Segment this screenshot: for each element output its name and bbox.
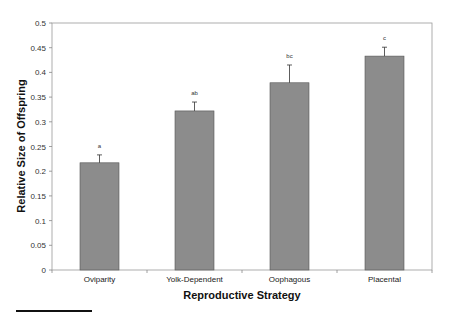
y-tick-label: 0.2 bbox=[35, 167, 47, 176]
y-tick-label: 0.25 bbox=[30, 143, 46, 152]
bar bbox=[80, 163, 119, 270]
y-tick-label: 0.45 bbox=[30, 44, 46, 53]
x-axis-title: Reproductive Strategy bbox=[183, 289, 301, 301]
plot-area: 00.050.10.150.20.250.30.350.40.450.5aOvi… bbox=[30, 19, 432, 284]
bar-chart: 00.050.10.150.20.250.30.350.40.450.5aOvi… bbox=[0, 0, 449, 315]
bar bbox=[175, 111, 214, 270]
x-category-label: Oviparity bbox=[84, 275, 116, 284]
y-tick-label: 0.15 bbox=[30, 192, 46, 201]
scale-bar-line bbox=[16, 310, 92, 312]
significance-label: c bbox=[383, 35, 386, 41]
significance-label: ab bbox=[191, 90, 198, 96]
y-tick-label: 0.5 bbox=[35, 19, 47, 28]
significance-label: bc bbox=[286, 53, 292, 59]
y-tick-label: 0.3 bbox=[35, 118, 47, 127]
bar bbox=[270, 83, 309, 270]
y-tick-label: 0 bbox=[42, 266, 47, 275]
bar bbox=[365, 56, 404, 270]
x-category-label: Oophagous bbox=[269, 275, 310, 284]
x-category-label: Placental bbox=[368, 275, 401, 284]
y-axis-title: Relative Size of Offspring bbox=[15, 79, 27, 212]
y-tick-label: 0.4 bbox=[35, 68, 47, 77]
x-category-label: Yolk-Dependent bbox=[166, 275, 223, 284]
y-tick-label: 0.35 bbox=[30, 93, 46, 102]
y-tick-label: 0.05 bbox=[30, 241, 46, 250]
y-tick-label: 0.1 bbox=[35, 217, 47, 226]
